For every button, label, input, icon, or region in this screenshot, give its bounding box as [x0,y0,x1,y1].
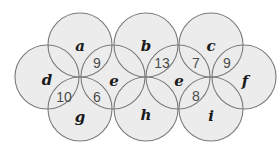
value-d-g: 10 [56,90,72,104]
value-a-e: 9 [93,56,101,70]
value-c-f: 9 [223,56,231,70]
label-c: c [206,39,215,54]
value-e-i: 8 [192,89,200,103]
label-e-left: e [109,74,119,89]
label-d: d [42,73,53,88]
value-c-e: 7 [192,56,200,70]
label-b: b [141,39,152,54]
label-a: a [75,39,85,54]
label-h: h [141,108,152,123]
value-b-e: 13 [154,56,170,70]
label-e-right: e [174,74,184,89]
value-e-g: 6 [93,90,101,104]
label-g: g [75,110,86,125]
label-i: i [208,109,214,124]
label-f: f [242,74,248,89]
